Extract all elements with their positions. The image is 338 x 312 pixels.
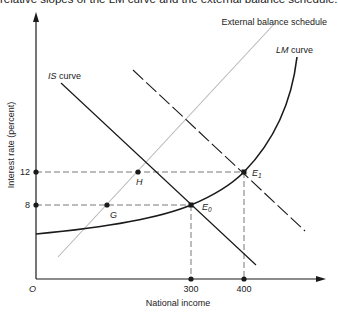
e0-sub: 0 [208, 206, 212, 213]
point-e0 [189, 203, 194, 208]
tick-label-8: 8 [25, 200, 30, 210]
tick-dot-300 [188, 276, 193, 281]
tick-dot-400 [241, 276, 246, 281]
origin-label: O [29, 284, 36, 294]
lm-rest: curve [289, 45, 314, 55]
tick-dot-8 [33, 202, 38, 207]
label-e1: E1 [252, 168, 262, 179]
external-balance-label: External balance schedule [221, 17, 327, 27]
label-g: G [110, 210, 117, 220]
tick-label-300: 300 [183, 284, 198, 294]
x-axis-label: National income [146, 298, 211, 308]
is-italic: IS [48, 71, 57, 81]
e1-sub: 1 [258, 172, 262, 179]
tick-dot-12 [33, 169, 38, 174]
lm-curve-label: LM curve [276, 45, 313, 55]
point-g [104, 202, 109, 207]
is-curve [61, 83, 256, 265]
tick-label-12: 12 [20, 167, 30, 177]
label-h: H [136, 177, 143, 187]
lm-italic: LM [276, 45, 289, 55]
external-balance-line [58, 22, 276, 257]
y-axis-arrow-icon [33, 12, 39, 22]
point-e1 [242, 170, 247, 175]
point-h [135, 169, 140, 174]
x-axis-arrow-icon [316, 276, 326, 282]
is-curve-label: IS curve [48, 71, 81, 81]
shifted-is-curve [133, 70, 305, 231]
tick-label-400: 400 [236, 284, 251, 294]
label-e0: E0 [202, 202, 212, 213]
y-axis-label: Interest rate (percent) [6, 102, 16, 189]
lm-curve [36, 57, 297, 234]
is-rest: curve [57, 71, 82, 81]
